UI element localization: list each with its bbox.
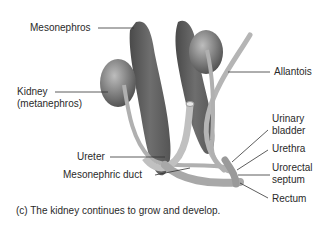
kidney-left (100, 59, 136, 107)
mesonephros-left (130, 21, 171, 175)
label-urorectal: Urorectal (272, 162, 313, 174)
figure-caption: (c) The kidney continues to grow and dev… (16, 205, 220, 216)
label-rectum: Rectum (272, 193, 306, 205)
label-metanephros: (metanephros) (17, 98, 82, 110)
label-kidney: Kidney (17, 86, 48, 98)
label-urinary: Urinary (272, 113, 304, 125)
label-mesonephric-duct: Mesonephric duct (63, 169, 142, 181)
label-bladder: bladder (272, 125, 305, 137)
label-allantois: Allantois (274, 66, 312, 78)
label-mesonephros: Mesonephros (30, 22, 91, 34)
label-ureter: Ureter (77, 151, 105, 163)
label-septum: septum (272, 174, 305, 186)
label-urethra: Urethra (272, 143, 305, 155)
